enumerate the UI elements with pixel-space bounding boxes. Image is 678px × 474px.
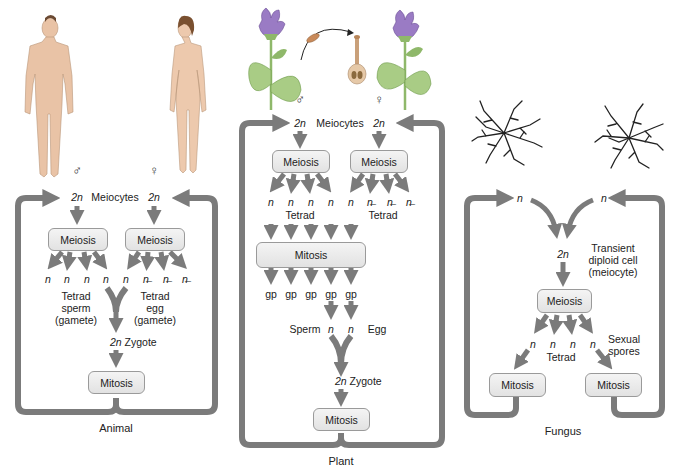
haploid-n: n bbox=[123, 273, 129, 285]
degenerate-n: n̶ bbox=[182, 273, 188, 285]
degenerate-n: n̶ bbox=[367, 196, 373, 208]
animal-zygote-label: 2n Zygote bbox=[110, 336, 157, 348]
plant-meiosis-box-male: Meiosis bbox=[272, 150, 330, 173]
plant-meiocyte-ploidy-left: 2n bbox=[294, 117, 306, 129]
plant-mitosis-box: Mitosis bbox=[313, 408, 370, 431]
fungus-meiosis-box: Meiosis bbox=[537, 289, 592, 313]
gametophyte-label: gp bbox=[305, 288, 317, 300]
woman-illustration bbox=[170, 16, 206, 173]
male-symbol: ♂ bbox=[72, 163, 82, 178]
animal-title: Animal bbox=[99, 422, 133, 434]
fungus-top-n-left: n bbox=[517, 192, 523, 204]
gametophyte-label: gp bbox=[265, 288, 277, 300]
fungus-tetrad-label: Tetrad bbox=[546, 351, 575, 363]
haploid-n: n bbox=[268, 196, 274, 208]
haploid-n: n bbox=[288, 196, 294, 208]
animal-meiocyte-ploidy-right: 2n bbox=[148, 191, 160, 203]
fungus-transient-diploid-label: Transient diploid cell (meiocyte) bbox=[588, 242, 637, 278]
gametophyte-label: gp bbox=[325, 288, 337, 300]
plant-meiocytes-label: Meiocytes bbox=[316, 117, 363, 129]
plant-zygote-label: 2n Zygote bbox=[335, 375, 382, 387]
haploid-n: n bbox=[64, 273, 70, 285]
plant-egg-label: Egg bbox=[368, 323, 387, 335]
egg-tetrad-label: Tetrad egg (gamete) bbox=[134, 290, 176, 326]
fungus-diploid-ploidy: 2n bbox=[557, 248, 569, 260]
haploid-n: n bbox=[570, 338, 576, 350]
degenerate-n: n̶ bbox=[406, 196, 412, 208]
haploid-n: n bbox=[84, 273, 90, 285]
haploid-n: n bbox=[45, 273, 51, 285]
plant-meiocyte-ploidy-right: 2n bbox=[373, 117, 385, 129]
plant-title: Plant bbox=[328, 455, 353, 467]
man-illustration bbox=[25, 15, 73, 177]
fungal-mycelium-left-illustration bbox=[472, 101, 542, 165]
haploid-n: n bbox=[590, 338, 596, 350]
plant-egg-n: n bbox=[348, 323, 354, 335]
haploid-n: n bbox=[550, 338, 556, 350]
plant-tetrad-right-label: Tetrad bbox=[368, 209, 397, 221]
animal-mitosis-box: Mitosis bbox=[88, 371, 145, 394]
animal-meiosis-box-male: Meiosis bbox=[48, 228, 108, 251]
plant-sperm-n: n bbox=[328, 323, 334, 335]
degenerate-n: n̶ bbox=[143, 273, 149, 285]
plant-sperm-label: Sperm bbox=[290, 323, 321, 335]
female-flower-illustration bbox=[377, 10, 431, 110]
pollen-transfer-illustration bbox=[301, 29, 366, 84]
plant-tetrad-left-label: Tetrad bbox=[285, 209, 314, 221]
animal-meiocytes-label: Meiocytes bbox=[91, 191, 138, 203]
gametophyte-label: gp bbox=[285, 288, 297, 300]
fungus-top-n-right: n bbox=[601, 192, 607, 204]
degenerate-n: n̶ bbox=[163, 273, 169, 285]
plant-mitosis-wide-box: Mitosis bbox=[256, 242, 366, 268]
female-symbol: ♀ bbox=[149, 163, 159, 178]
fungal-mycelium-right-illustration bbox=[595, 104, 663, 168]
male-flower-illustration bbox=[249, 8, 301, 110]
haploid-n: n bbox=[308, 196, 314, 208]
fungus-mitosis-box-right: Mitosis bbox=[585, 373, 642, 397]
plant-female-symbol: ♀ bbox=[374, 92, 384, 107]
haploid-n: n bbox=[328, 196, 334, 208]
sexual-spores-label: Sexual spores bbox=[608, 333, 640, 357]
plant-meiosis-box-female: Meiosis bbox=[350, 150, 408, 173]
sperm-tetrad-label: Tetrad sperm (gamete) bbox=[55, 290, 97, 326]
fungus-title: Fungus bbox=[545, 425, 582, 437]
animal-meiocyte-ploidy-left: 2n bbox=[71, 191, 83, 203]
animal-meiosis-box-female: Meiosis bbox=[125, 228, 185, 251]
fungus-mitosis-box-left: Mitosis bbox=[489, 373, 546, 397]
life-cycles-diagram: ♂ ♀ 2n Meiocytes 2n Meiosis Meiosis n n … bbox=[0, 0, 678, 474]
plant-male-symbol: ♂ bbox=[295, 92, 305, 107]
gametophyte-label: gp bbox=[345, 288, 357, 300]
haploid-n: n bbox=[103, 273, 109, 285]
haploid-n: n bbox=[348, 196, 354, 208]
degenerate-n: n̶ bbox=[387, 196, 393, 208]
haploid-n: n bbox=[530, 338, 536, 350]
